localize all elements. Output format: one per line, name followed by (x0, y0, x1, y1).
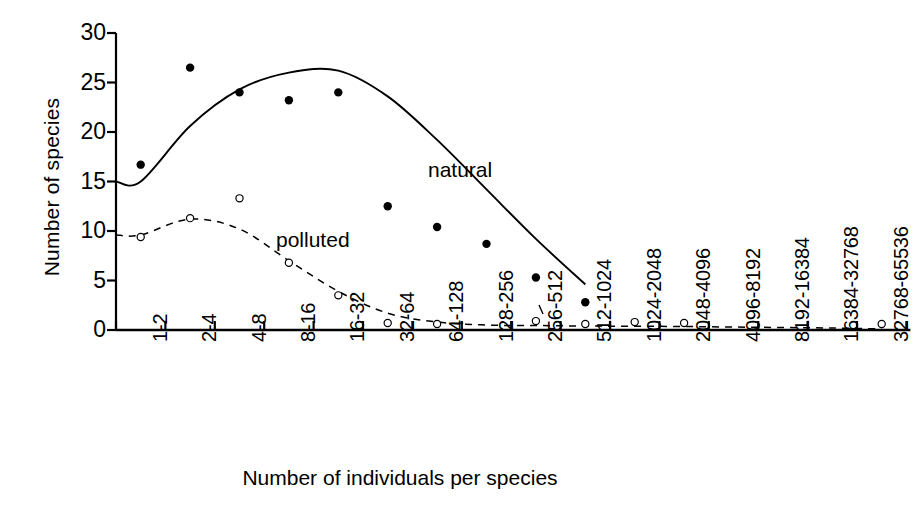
x-tick-label: 4-8 (248, 314, 271, 342)
x-tick-label: 128-256 (495, 270, 518, 342)
x-tick-label: 2048-4096 (692, 248, 715, 342)
x-tick-label: 16-32 (346, 292, 369, 342)
x-tick-label: 2-4 (198, 314, 221, 342)
series-annotation-polluted: polluted (276, 228, 350, 252)
x-tick-label: 256-512 (544, 270, 567, 342)
x-tick-label: 16384-32768 (840, 226, 863, 342)
chart-figure: Number of species 302520151050 1-22-44-8… (0, 0, 913, 512)
x-tick-label: 1-2 (149, 314, 172, 342)
x-tick-label: 4096-8192 (742, 248, 765, 342)
x-tick-label: 32768-65536 (890, 226, 913, 342)
x-tick-label: 512-1024 (593, 259, 616, 342)
x-axis-tick-labels: 1-22-44-88-1616-3232-6464-128128-256256-… (0, 0, 913, 512)
x-axis-title: Number of individuals per species (0, 466, 800, 490)
series-annotation-natural: natural (428, 158, 492, 182)
x-tick-label: 1024-2048 (643, 248, 666, 342)
x-tick-label: 64-128 (445, 281, 468, 342)
x-tick-label: 8-16 (297, 303, 320, 342)
x-tick-label: 32-64 (396, 292, 419, 342)
x-tick-label: 8192-16384 (791, 237, 814, 342)
